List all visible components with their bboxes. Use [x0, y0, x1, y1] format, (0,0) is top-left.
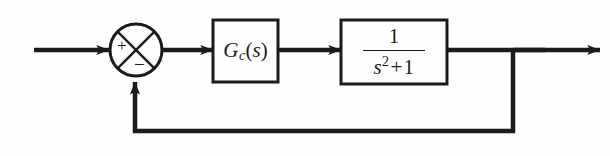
summing-junction-plus-sign: +: [117, 37, 127, 54]
controller-label-subscript: c: [239, 48, 245, 63]
plant-denominator-constant: 1: [404, 55, 415, 79]
plant-denominator-variable: s: [374, 55, 382, 79]
plant-denominator: s2+1: [374, 51, 415, 78]
plant-block-label: 1 s2+1: [341, 20, 447, 84]
summing-junction-minus-sign: −: [134, 55, 145, 74]
plant-denominator-exponent: 2: [382, 54, 389, 69]
controller-label-g: G: [223, 38, 238, 62]
plant-numerator: 1: [389, 26, 400, 50]
block-diagram-figure: + − Gc(s) 1 s2+1: [0, 0, 610, 156]
controller-label-paren-open: (: [246, 38, 253, 62]
plant-transfer-function: 1 s2+1: [363, 26, 425, 78]
controller-label-var: s: [253, 38, 261, 62]
controller-label-paren-close: ): [261, 38, 268, 62]
plant-denominator-operator: +: [390, 55, 402, 79]
feedback-path: [135, 50, 513, 131]
diagram-canvas: [0, 0, 610, 156]
controller-block-label: Gc(s): [213, 20, 278, 82]
